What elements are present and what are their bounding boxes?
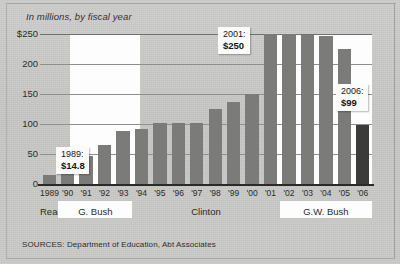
y-axis-tick-200: 200 <box>0 58 38 69</box>
bar-00 <box>245 94 258 184</box>
bar-03 <box>301 35 314 184</box>
callout-2001-value: $250 <box>223 40 246 51</box>
callout-1989: 1989:$14.8 <box>56 147 89 174</box>
era-label-reagan: Reagan <box>40 206 58 217</box>
x-axis-tick-00: '00 <box>243 188 261 198</box>
bar-06 <box>356 125 369 184</box>
x-axis-tick-91: '91 <box>77 188 95 198</box>
y-axis-tick-100: 100 <box>0 118 38 129</box>
x-axis-tick-06: '06 <box>354 188 372 198</box>
x-axis-tick-1989: 1989 <box>40 188 58 198</box>
x-axis-tick-99: '99 <box>224 188 242 198</box>
bar-98 <box>209 109 222 184</box>
bar-99 <box>227 102 240 184</box>
callout-2006-year: 2006: <box>341 86 364 97</box>
x-axis-line <box>38 184 374 186</box>
bar-chart: In millions, by fiscal year 050100150200… <box>0 0 400 264</box>
bar-92 <box>98 145 111 184</box>
x-axis-tick-05: '05 <box>335 188 353 198</box>
era-label-clinton: Clinton <box>132 206 280 217</box>
callout-2001: 2001:$250 <box>218 27 250 54</box>
y-axis-tick-0: 0 <box>0 178 38 189</box>
x-axis-tick-04: '04 <box>317 188 335 198</box>
bar-95 <box>153 123 166 184</box>
bar-1989 <box>43 175 56 184</box>
bar-04 <box>319 36 332 184</box>
y-axis-tick-50: 50 <box>0 148 38 159</box>
x-axis-tick-93: '93 <box>114 188 132 198</box>
era-label-g-bush: G. Bush <box>58 206 132 217</box>
x-axis-tick-01: '01 <box>261 188 279 198</box>
y-axis-tick-250: $250 <box>0 28 38 39</box>
y-axis-tick-150: 150 <box>0 88 38 99</box>
x-axis-tick-96: '96 <box>169 188 187 198</box>
bars-group <box>40 34 372 184</box>
x-axis-tick-95: '95 <box>151 188 169 198</box>
callout-1989-year: 1989: <box>61 149 85 160</box>
bar-01 <box>264 34 277 184</box>
callout-2006: 2006:$99 <box>336 84 368 111</box>
x-axis-tick-90: '90 <box>58 188 76 198</box>
x-axis-tick-02: '02 <box>280 188 298 198</box>
x-axis-tick-97: '97 <box>188 188 206 198</box>
callout-2001-year: 2001: <box>223 29 246 40</box>
callout-1989-value: $14.8 <box>61 160 85 171</box>
chart-subtitle: In millions, by fiscal year <box>26 11 132 22</box>
era-label-g-w-bush: G.W. Bush <box>280 206 372 217</box>
bar-97 <box>190 123 203 184</box>
bar-96 <box>172 123 185 184</box>
bar-94 <box>135 129 148 184</box>
bar-02 <box>282 34 295 184</box>
x-axis-tick-94: '94 <box>132 188 150 198</box>
x-axis-tick-92: '92 <box>95 188 113 198</box>
bar-05 <box>338 49 351 184</box>
bar-93 <box>116 131 129 184</box>
x-axis-tick-98: '98 <box>206 188 224 198</box>
callout-2006-value: $99 <box>341 97 364 108</box>
x-axis-tick-03: '03 <box>298 188 316 198</box>
sources-note: SOURCES: Department of Education, Abt As… <box>22 240 216 249</box>
